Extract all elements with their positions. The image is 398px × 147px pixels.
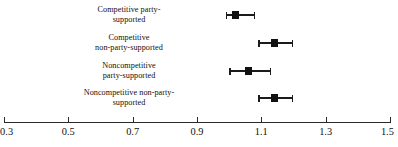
x-axis-tick <box>68 117 69 123</box>
x-axis-tick-label: 0.9 <box>191 125 204 138</box>
x-axis-tick <box>133 117 134 123</box>
row-plot-area <box>0 1 398 29</box>
error-bar-cap-high <box>254 12 255 19</box>
error-bar-cap-high <box>292 95 293 102</box>
error-bar-cap-low <box>258 95 259 102</box>
x-axis-tick-label: 0.3 <box>0 125 13 138</box>
error-bar-cap-low <box>229 68 230 75</box>
estimate-marker <box>232 11 239 18</box>
error-bar-cap-high <box>270 68 271 75</box>
x-axis-tick-label: 1.1 <box>255 125 268 138</box>
estimate-marker <box>271 94 278 101</box>
x-axis-tick-label: 0.5 <box>62 125 75 138</box>
error-bar-cap-high <box>292 40 293 47</box>
plot-row: Noncompetitive non-party- supported <box>0 84 398 112</box>
plot-row: Competitive party- supported <box>0 1 398 29</box>
row-plot-area <box>0 84 398 112</box>
error-bar-line <box>226 14 255 15</box>
x-axis-tick-label: 1.3 <box>319 125 332 138</box>
row-plot-area <box>0 57 398 85</box>
x-axis-tick-label: 1.5 <box>381 125 394 138</box>
plot-row: Noncompetitive party-supported <box>0 57 398 85</box>
x-axis-tick <box>326 117 327 123</box>
x-axis-tick-label: 0.7 <box>126 125 139 138</box>
x-axis-tick <box>197 117 198 123</box>
x-axis: 0.30.50.70.91.11.31.5 <box>0 112 398 147</box>
estimate-marker <box>245 67 252 74</box>
plot-rows: Competitive party- supported Competitive… <box>0 0 398 112</box>
row-plot-area <box>0 29 398 57</box>
forest-plot-figure: Competitive party- supported Competitive… <box>0 0 398 147</box>
plot-row: Competitive non-party-supported <box>0 29 398 57</box>
x-axis-tick <box>4 117 5 123</box>
x-axis-tick <box>390 117 391 123</box>
x-axis-tick <box>261 117 262 123</box>
estimate-marker <box>271 39 278 46</box>
error-bar-cap-low <box>258 40 259 47</box>
error-bar-cap-low <box>226 12 227 19</box>
